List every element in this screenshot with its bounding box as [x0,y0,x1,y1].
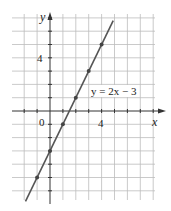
origin-label: 0 [39,116,45,128]
data-point [35,176,39,180]
data-point [48,149,52,153]
y-axis-arrow-icon [48,12,53,20]
x-axis-label: x [151,115,158,129]
equation-label: y = 2x − 3 [91,85,137,97]
linear-function-graph: y x 0 4 4 y = 2x − 3 [0,0,171,211]
data-point [74,96,78,100]
x-axis-arrow-icon [158,109,166,114]
x-tick-label-4: 4 [98,117,104,129]
grid [12,14,155,200]
data-point [61,122,65,126]
y-axis-label: y [39,10,46,24]
y-tick-label-4: 4 [37,52,43,64]
data-point [100,43,104,47]
data-point [87,69,91,73]
